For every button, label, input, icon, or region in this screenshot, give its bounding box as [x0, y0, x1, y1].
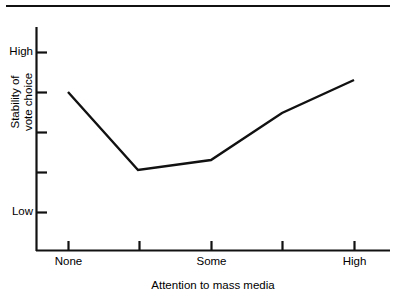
axes-group: [36, 27, 390, 251]
y-tick-label-low: Low: [0, 206, 33, 218]
chart-figure: High Low None Some High Stability of vot…: [0, 0, 397, 308]
x-axis-ticks: [69, 241, 355, 250]
x-axis-title: Attention to mass media: [36, 279, 390, 292]
y-axis-title: Stability of vote choice: [6, 54, 38, 150]
x-tick-label-none: None: [38, 256, 99, 268]
y-axis-ticks: [37, 53, 47, 213]
data-series-line: [68, 80, 354, 170]
x-tick-label-some: Some: [181, 256, 242, 268]
x-tick-label-high: High: [324, 256, 385, 268]
y-axis-title-text: Stability of vote choice: [9, 73, 35, 131]
